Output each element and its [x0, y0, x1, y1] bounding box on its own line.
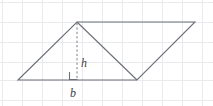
shape-layer — [18, 22, 195, 80]
geometry-figure: h b — [0, 0, 213, 106]
grid-layer — [0, 0, 213, 106]
figure-canvas: h b — [0, 0, 213, 106]
right-angle-icon — [70, 72, 78, 80]
parallelogram-diagonal — [77, 22, 137, 80]
base-label: b — [70, 86, 76, 100]
height-label: h — [81, 56, 87, 70]
